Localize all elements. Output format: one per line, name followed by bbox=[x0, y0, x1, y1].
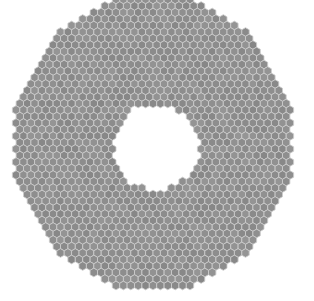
hex-segment bbox=[179, 281, 186, 290]
hex-segment bbox=[68, 255, 75, 264]
mirror-array-svg bbox=[0, 0, 314, 301]
hex-segment bbox=[135, 281, 142, 290]
hex-segment bbox=[112, 281, 119, 290]
hex-segment bbox=[157, 281, 164, 290]
hex-segment bbox=[157, 99, 164, 108]
hex-segment bbox=[164, 99, 171, 108]
hex-segment bbox=[90, 268, 97, 277]
hex-segment bbox=[135, 99, 142, 108]
segmented-mirror-figure bbox=[0, 0, 314, 301]
hex-segment bbox=[120, 281, 127, 290]
hex-segment bbox=[186, 281, 193, 290]
hex-segment bbox=[142, 281, 149, 290]
hex-segment bbox=[142, 99, 149, 108]
hex-segment bbox=[149, 281, 156, 290]
hex-segment bbox=[57, 249, 64, 258]
hex-segment bbox=[209, 268, 216, 277]
hex-segment bbox=[164, 281, 171, 290]
hex-segment bbox=[242, 249, 249, 258]
hex-segment bbox=[175, 106, 182, 115]
hex-segment bbox=[79, 262, 86, 271]
hex-segment bbox=[172, 281, 179, 290]
hex-segment bbox=[101, 275, 108, 284]
hex-segment bbox=[231, 255, 238, 264]
hex-segment bbox=[220, 262, 227, 271]
hex-segment bbox=[197, 275, 204, 284]
hex-segment bbox=[149, 99, 156, 108]
hex-segment bbox=[127, 281, 134, 290]
